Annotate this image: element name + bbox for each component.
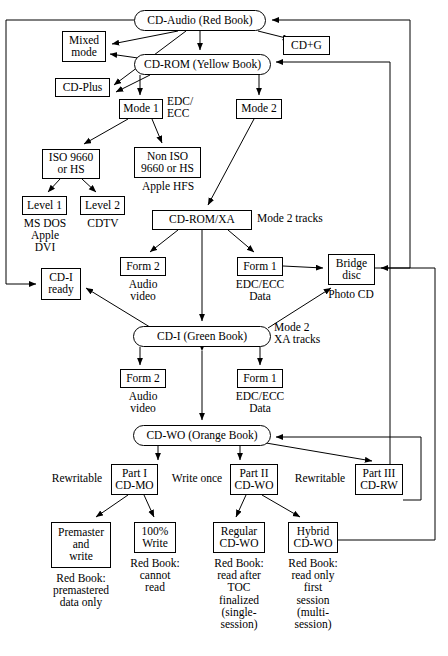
node-label: Level 2 [85, 200, 120, 212]
annotation-regular_note: Red Book: read after TOC finalized (sing… [206, 557, 272, 630]
annotation-mode2_xa_tracks: Mode 2 XA tracks [274, 321, 344, 345]
annotation-rewritable_1: Rewritable [44, 472, 110, 484]
node-noniso[interactable]: Non ISO 9660 or HS [134, 147, 201, 178]
node-write100[interactable]: 100% Write [134, 522, 176, 553]
node-mixed_mode[interactable]: Mixed mode [62, 31, 106, 62]
node-label: Regular CD-WO [220, 526, 259, 549]
node-mode1[interactable]: Mode 1 [119, 99, 163, 119]
node-label: Form 2 [126, 373, 160, 385]
node-part2[interactable]: Part II CD-WO [230, 464, 278, 495]
node-level2[interactable]: Level 2 [80, 196, 125, 215]
annotation-cdtv: CDTV [80, 217, 126, 229]
node-part1[interactable]: Part I CD-MO [111, 464, 158, 495]
annotation-ms_dos_apple_dvi: MS DOS Apple DVI [14, 217, 76, 254]
node-cd_plus[interactable]: CD-Plus [55, 78, 110, 97]
node-cd_rom[interactable]: CD-ROM (Yellow Book) [134, 54, 271, 75]
node-cd_audio[interactable]: CD-Audio (Red Book) [134, 10, 266, 31]
node-bridge[interactable]: Bridge disc [328, 254, 375, 285]
annotation-rewritable_2: Rewritable [287, 472, 353, 484]
node-form2_xa[interactable]: Form 2 [120, 257, 166, 276]
node-cdromxa[interactable]: CD-ROM/XA [152, 210, 252, 230]
node-label: Bridge disc [336, 258, 367, 281]
node-label: Form 2 [126, 261, 160, 273]
node-regular[interactable]: Regular CD-WO [213, 522, 265, 553]
annotation-audio_video_cdi: Audio video [113, 390, 173, 414]
node-label: Mixed mode [69, 35, 99, 58]
node-mode2[interactable]: Mode 2 [236, 99, 282, 119]
node-label: CD-I (Green Book) [157, 331, 247, 343]
node-label: 100% Write [142, 526, 169, 549]
node-level1[interactable]: Level 1 [22, 196, 67, 215]
node-label: Hybrid CD-WO [294, 526, 333, 549]
node-hybrid[interactable]: Hybrid CD-WO [288, 522, 338, 553]
annotation-mode2_tracks: Mode 2 tracks [257, 212, 353, 224]
node-label: ISO 9660 or HS [49, 152, 93, 175]
annotation-write100_note: Red Book: cannot read [124, 557, 186, 594]
node-label: CD+G [291, 40, 322, 52]
annotation-write_once: Write once [163, 472, 231, 484]
annotation-edc_ecc_data_xa: EDC/ECC Data [228, 278, 292, 302]
node-label: Level 1 [27, 200, 62, 212]
node-label: Part I CD-MO [115, 468, 153, 491]
annotation-apple_hfs: Apple HFS [132, 180, 204, 192]
node-label: Premaster and write [58, 527, 104, 562]
node-cd_g[interactable]: CD+G [283, 36, 330, 55]
node-cdi_ready[interactable]: CD-I ready [41, 268, 81, 300]
node-label: CD-ROM (Yellow Book) [144, 59, 261, 71]
node-iso9660[interactable]: ISO 9660 or HS [42, 149, 100, 179]
node-cdwo[interactable]: CD-WO (Orange Book) [133, 425, 271, 446]
node-label: CD-WO (Orange Book) [146, 430, 257, 442]
annotation-premaster_note: Red Book: premastered data only [40, 572, 122, 609]
node-label: Form 1 [243, 261, 277, 273]
node-label: Part II CD-WO [235, 468, 274, 491]
node-form1_xa[interactable]: Form 1 [237, 257, 283, 276]
node-label: Mode 1 [123, 103, 158, 115]
node-part3[interactable]: Part III CD-RW [355, 464, 403, 495]
annotation-edc_ecc_mode1: EDC/ ECC [167, 95, 209, 119]
node-label: CD-ROM/XA [169, 214, 235, 226]
annotation-audio_video_xa: Audio video [113, 278, 173, 302]
annotation-edc_ecc_data_cdi: EDC/ECC Data [228, 390, 292, 414]
node-cdi_green[interactable]: CD-I (Green Book) [133, 326, 271, 347]
node-form2_cdi[interactable]: Form 2 [120, 369, 166, 388]
node-label: Part III CD-RW [360, 468, 398, 491]
node-form1_cdi[interactable]: Form 1 [237, 369, 283, 388]
annotation-hybrid_note: Red Book: read only first session (multi… [281, 557, 345, 630]
node-premaster[interactable]: Premaster and write [51, 522, 111, 568]
node-label: CD-Audio (Red Book) [147, 15, 252, 27]
node-label: CD-Plus [63, 82, 103, 94]
node-label: Form 1 [243, 373, 277, 385]
annotation-photo_cd: Photo CD [318, 288, 384, 300]
diagram-canvas: CD-Audio (Red Book)Mixed modeCD-PlusCD+G… [0, 0, 448, 656]
node-label: CD-I ready [48, 272, 74, 295]
node-label: Mode 2 [241, 103, 276, 115]
node-label: Non ISO 9660 or HS [141, 151, 194, 174]
